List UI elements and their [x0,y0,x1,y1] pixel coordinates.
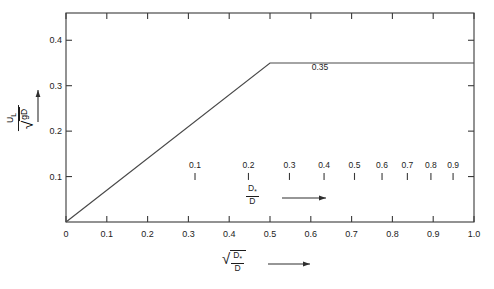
x-axis-label: √D*D [222,250,246,272]
x-tick-label: 0.9 [427,230,440,239]
secondary-tick-label: 0.6 [376,161,388,170]
x-tick-label: 0.1 [101,230,114,239]
y-tick-label: 0.4 [40,36,62,45]
sqrt-sign-glyph: √ [20,121,35,129]
sqrt-sign-glyph-x: √ [222,251,230,273]
x-tick-label: 0.4 [223,230,236,239]
x-tick-label: 0.7 [345,230,358,239]
secondary-tick-label: 0.5 [349,161,361,170]
secondary-axis-label-fraction: D* D [246,184,259,205]
series-line [66,63,474,222]
y-axis-label-numerator: UL [6,105,18,131]
y-axis-label-fraction: UL √gD [6,105,34,131]
y-axis-label-denominator: √gD [18,105,34,131]
y-axis-label-radicand: gD [19,107,34,121]
y-axis-label-numerator-text: U [5,117,15,123]
plot-frame [66,13,474,222]
x-axis-ticks [66,216,474,222]
x-axis-label-radicand: D*D [230,250,246,272]
x-tick-label: 0.8 [386,230,399,239]
x-tick-label: 0 [63,230,68,239]
y-axis-label-numerator-subscript: L [10,113,17,117]
secondary-tick-label: 0.7 [401,161,413,170]
secondary-axis-arrow [282,196,326,201]
x-axis-top-ticks [66,13,474,19]
x-tick-label: 0.3 [182,230,195,239]
x-axis-label-fraction: D*D [231,251,244,272]
data-series [66,63,474,222]
sqrt-icon-x: √D*D [222,250,246,272]
y-axis-label: UL √gD [6,105,34,131]
y-tick-label: 0.1 [40,172,62,181]
y-axis-arrow [36,90,41,122]
x-axis-label-numerator: D* [231,251,244,263]
sqrt-icon: √gD [19,107,34,129]
y-tick-label: 0.3 [40,81,62,90]
x-tick-label: 1.0 [468,230,481,239]
secondary-axis-label-denominator: D [246,196,259,206]
x-tick-label: 0.6 [305,230,318,239]
x-axis-arrow [268,262,310,267]
chart-figure: 00.10.20.30.40.50.60.70.80.91.0 0.10.20.… [0,0,494,289]
secondary-tick-label: 0.3 [284,161,296,170]
secondary-tick-label: 0.2 [243,161,255,170]
chart-canvas [0,0,494,289]
secondary-tick-label: 0.9 [447,161,459,170]
secondary-tick-label: 0.8 [425,161,437,170]
plateau-value-annotation: 0.35 [312,63,329,72]
secondary-axis-label-numerator: D* [246,184,259,196]
y-axis-ticks [66,40,474,176]
secondary-tick-label: 0.4 [318,161,330,170]
secondary-tick-label: 0.1 [189,161,201,170]
secondary-axis-ticks [195,173,453,180]
secondary-axis-label-numerator-subscript: * [254,188,257,195]
x-tick-label: 0.5 [264,230,277,239]
x-axis-label-denominator: D [231,263,244,273]
x-tick-label: 0.2 [141,230,154,239]
y-tick-label: 0.2 [40,127,62,136]
x-axis-label-numerator-subscript: * [239,255,242,262]
secondary-axis-label: D* D [246,184,259,205]
